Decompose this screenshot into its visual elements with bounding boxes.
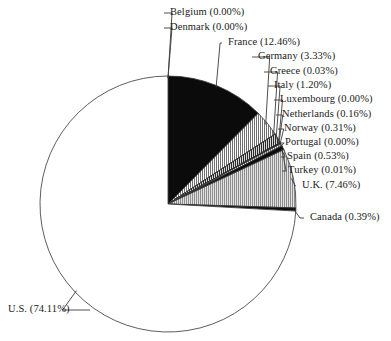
callout-label-netherlands: Netherlands (0.16%) bbox=[282, 109, 371, 120]
callout-label-france: France (12.46%) bbox=[228, 37, 300, 48]
callout-label-turkey: Turkey (0.01%) bbox=[288, 165, 356, 176]
callout-label-spain: Spain (0.53%) bbox=[287, 151, 349, 162]
pie-chart-figure: Belgium (0.00%)Denmark (0.00%)France (12… bbox=[0, 0, 391, 341]
leader-line-france bbox=[216, 43, 222, 88]
callout-label-denmark: Denmark (0.00%) bbox=[170, 22, 247, 33]
callout-label-uk: U.K. (7.46%) bbox=[302, 180, 360, 191]
callout-label-portugal: Portugal (0.00%) bbox=[285, 137, 359, 148]
callout-label-belgium: Belgium (0.00%) bbox=[170, 7, 244, 18]
callout-label-luxembourg: Luxembourg (0.00%) bbox=[280, 94, 373, 105]
callout-label-greece: Greece (0.03%) bbox=[270, 66, 338, 77]
callout-label-us: U.S. (74.11%) bbox=[8, 304, 70, 315]
callout-label-canada: Canada (0.39%) bbox=[310, 212, 380, 223]
pie-slices-group bbox=[40, 76, 296, 332]
callout-label-germany: Germany (3.33%) bbox=[258, 51, 335, 62]
callout-label-italy: Italy (1.20%) bbox=[274, 80, 331, 91]
callout-label-norway: Norway (0.31%) bbox=[284, 123, 356, 134]
